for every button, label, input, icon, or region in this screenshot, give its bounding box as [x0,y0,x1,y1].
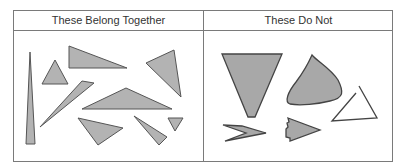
small-inverted-triangle [168,118,183,131]
tall-thin-triangle [26,52,35,144]
small-triangle [42,60,68,84]
bottom-left-triangle [78,118,123,145]
shapes-canvas [0,0,405,168]
curved-blob [287,55,342,105]
inverted-trapezoid [222,54,282,117]
do-not-group [222,54,377,141]
right-triangle [69,46,127,68]
bottom-mid-triangle [134,116,167,145]
wide-triangle [82,88,172,109]
notched-arrow [286,118,320,141]
chevron-shape [223,125,266,141]
belong-together-group [26,46,183,145]
top-right-triangle [146,50,181,97]
